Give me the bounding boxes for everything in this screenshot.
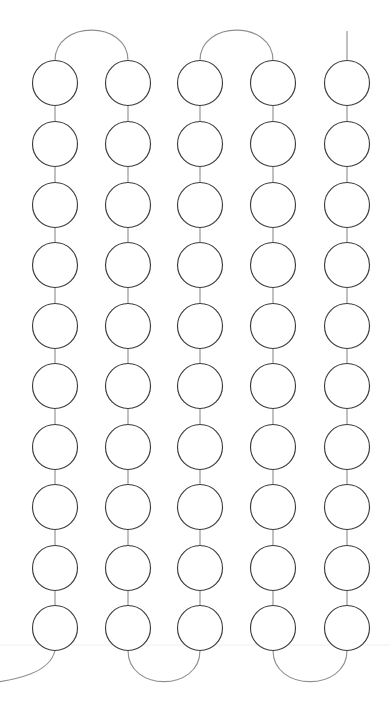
node-circle-col5-row8[interactable] (325, 485, 370, 530)
node-circle-col2-row5[interactable] (106, 304, 151, 349)
node-circle-col1-row9[interactable] (33, 546, 78, 591)
node-circle-col4-row8[interactable] (251, 485, 296, 530)
canvas-background (0, 0, 390, 709)
node-circle-col2-row8[interactable] (106, 485, 151, 530)
node-circle-col1-row4[interactable] (33, 243, 78, 288)
node-circle-col3-row9[interactable] (178, 546, 223, 591)
node-circle-col5-row9[interactable] (325, 546, 370, 591)
node-circle-col3-row4[interactable] (178, 243, 223, 288)
node-circle-col4-row6[interactable] (251, 364, 296, 409)
node-circle-col3-row1[interactable] (178, 61, 223, 106)
node-circle-col3-row5[interactable] (178, 304, 223, 349)
node-circle-col4-row2[interactable] (251, 122, 296, 167)
node-circle-col4-row9[interactable] (251, 546, 296, 591)
node-circle-col1-row7[interactable] (33, 425, 78, 470)
node-circle-col3-row6[interactable] (178, 364, 223, 409)
node-circle-col1-row2[interactable] (33, 122, 78, 167)
node-circle-col2-row7[interactable] (106, 425, 151, 470)
node-circle-col5-row5[interactable] (325, 304, 370, 349)
node-circle-col5-row1[interactable] (325, 61, 370, 106)
node-circle-col3-row7[interactable] (178, 425, 223, 470)
node-circle-col5-row3[interactable] (325, 183, 370, 228)
node-circle-col2-row1[interactable] (106, 61, 151, 106)
node-circle-col5-row2[interactable] (325, 122, 370, 167)
node-circle-col1-row10[interactable] (33, 606, 78, 651)
node-circle-col3-row2[interactable] (178, 122, 223, 167)
node-circle-col4-row7[interactable] (251, 425, 296, 470)
node-circle-col2-row2[interactable] (106, 122, 151, 167)
node-circle-col1-row5[interactable] (33, 304, 78, 349)
node-circle-col5-row4[interactable] (325, 243, 370, 288)
node-circle-col4-row5[interactable] (251, 304, 296, 349)
node-circle-col4-row1[interactable] (251, 61, 296, 106)
node-circle-col5-row10[interactable] (325, 606, 370, 651)
node-circle-col3-row3[interactable] (178, 183, 223, 228)
node-circle-col1-row6[interactable] (33, 364, 78, 409)
node-circle-col2-row6[interactable] (106, 364, 151, 409)
node-circle-col2-row10[interactable] (106, 606, 151, 651)
serpentine-chain-svg (0, 0, 390, 709)
node-circle-col3-row10[interactable] (178, 606, 223, 651)
node-circle-col5-row7[interactable] (325, 425, 370, 470)
node-circle-col5-row6[interactable] (325, 364, 370, 409)
node-circle-col2-row3[interactable] (106, 183, 151, 228)
node-circle-col3-row8[interactable] (178, 485, 223, 530)
node-circle-col2-row9[interactable] (106, 546, 151, 591)
node-circle-col2-row4[interactable] (106, 243, 151, 288)
node-circle-col1-row1[interactable] (33, 61, 78, 106)
diagram-canvas (0, 0, 390, 709)
node-circle-col4-row10[interactable] (251, 606, 296, 651)
node-circle-col4-row4[interactable] (251, 243, 296, 288)
node-circle-col1-row8[interactable] (33, 485, 78, 530)
node-circle-col4-row3[interactable] (251, 183, 296, 228)
node-circle-col1-row3[interactable] (33, 183, 78, 228)
